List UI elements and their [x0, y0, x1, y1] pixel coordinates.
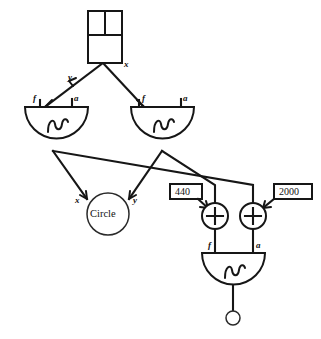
- wire-right-osc-to-circle-y: [129, 151, 162, 199]
- label-left-osc-a: a: [74, 94, 79, 103]
- label-left-osc-f: f: [33, 94, 36, 103]
- label-right-osc-f: f: [142, 94, 145, 103]
- label-right-osc-a: a: [183, 94, 188, 103]
- diagram-vector-layer: [0, 0, 321, 339]
- diagram-canvas: x y f a f a x y Circle 440 2000 f a: [0, 0, 321, 339]
- output-terminal[interactable]: [226, 311, 240, 325]
- sine-oscillator-right[interactable]: [131, 107, 194, 139]
- label-bottom-osc-f: f: [208, 241, 211, 250]
- label-box-output-y: y: [68, 73, 72, 82]
- label-circle-x: x: [75, 196, 80, 205]
- sine-oscillator-left[interactable]: [25, 107, 88, 139]
- label-circle-node: Circle: [90, 209, 116, 220]
- label-box-output-x: x: [124, 60, 129, 69]
- sine-oscillator-bottom[interactable]: [202, 253, 265, 285]
- label-constant-440: 440: [175, 187, 190, 197]
- label-bottom-osc-a: a: [256, 241, 261, 250]
- label-circle-y: y: [133, 196, 137, 205]
- wire-left-osc-to-circle-x: [53, 151, 87, 199]
- label-constant-2000: 2000: [279, 187, 299, 197]
